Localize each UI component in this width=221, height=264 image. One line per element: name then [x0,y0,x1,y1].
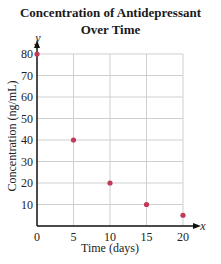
y-tick-label: 80 [21,47,33,61]
y-tick-label: 10 [21,198,33,212]
grid [37,54,183,226]
x-tick-label: 20 [177,230,189,244]
y-axis-label: Concentration (ng/mL) [5,81,19,192]
x-axis-variable: x [199,219,206,233]
y-tick-label: 70 [21,69,33,83]
data-point [144,202,149,207]
data-point [71,137,76,142]
y-tick-label: 60 [21,90,33,104]
y-tick-label: 50 [21,112,33,126]
y-axis-variable: y [34,31,41,45]
x-axis-label: Time (days) [81,241,139,255]
chart-area: 051015201020304050607080 Time (days) Con… [0,0,221,264]
data-point [34,51,39,56]
y-tick-label: 30 [21,155,33,169]
y-tick-label: 20 [21,176,33,190]
data-point [107,180,112,185]
tick-labels: 051015201020304050607080 [21,47,189,244]
x-tick-label: 0 [34,230,40,244]
axes [34,40,201,229]
x-tick-label: 15 [141,230,153,244]
data-point [180,213,185,218]
x-tick-label: 5 [71,230,77,244]
y-tick-label: 40 [21,133,33,147]
